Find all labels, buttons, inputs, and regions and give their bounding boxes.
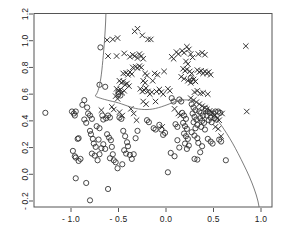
data-point-cross — [149, 89, 154, 94]
data-point-cross — [111, 107, 116, 112]
data-point-circle — [98, 45, 103, 50]
x-axis-tick-labels: - 1.0- 0.50.00.51.0 — [62, 214, 267, 224]
data-point-circle — [73, 176, 78, 181]
data-point-cross — [132, 53, 137, 58]
data-point-cross — [134, 117, 139, 122]
y-tick-label: 1.2 — [20, 8, 30, 20]
data-point-circle — [109, 144, 114, 149]
data-point-cross — [216, 126, 221, 131]
data-point-circle — [87, 128, 92, 133]
y-tick-label: 1.0 — [20, 34, 30, 46]
scatter-plot-figure: - 1.0- 0.50.00.51.0 - 0.20.00.20.40.60.8… — [0, 0, 283, 242]
data-point-circle — [198, 150, 203, 155]
data-point-circle — [172, 154, 177, 159]
data-point-cross — [115, 35, 120, 40]
data-point-cross — [135, 26, 140, 31]
data-point-cross — [171, 56, 176, 61]
data-points-circle-class — [43, 45, 229, 203]
data-point-circle — [175, 138, 180, 143]
data-point-cross — [139, 65, 144, 70]
data-point-cross — [127, 54, 132, 59]
data-point-cross — [99, 107, 104, 112]
data-point-circle — [189, 130, 194, 135]
data-point-cross — [244, 109, 249, 114]
data-point-cross — [184, 44, 189, 49]
data-point-cross — [185, 61, 190, 66]
data-point-cross — [142, 80, 147, 85]
data-point-circle — [177, 145, 182, 150]
x-tick-label: 0.5 — [207, 214, 219, 224]
x-tick-label: - 0.5 — [109, 214, 127, 224]
data-point-circle — [131, 152, 136, 157]
data-point-circle — [123, 134, 128, 139]
data-point-cross — [181, 50, 186, 55]
data-point-cross — [161, 69, 166, 74]
data-point-circle — [85, 105, 90, 110]
data-point-circle — [200, 144, 205, 149]
data-point-cross — [184, 67, 189, 72]
data-point-cross — [143, 101, 148, 106]
data-point-circle — [120, 162, 125, 167]
data-point-cross — [205, 91, 210, 96]
data-point-cross — [206, 69, 211, 74]
data-point-circle — [223, 158, 228, 163]
data-point-cross — [172, 106, 177, 111]
data-point-cross — [179, 74, 184, 79]
x-tick-label: - 1.0 — [62, 214, 80, 224]
data-point-circle — [96, 137, 101, 142]
y-tick-label: 0.8 — [20, 61, 30, 73]
data-point-cross — [202, 52, 207, 57]
decision-boundary-curve — [95, 6, 260, 213]
data-point-cross — [157, 87, 162, 92]
data-point-cross — [144, 73, 149, 78]
data-point-cross — [193, 79, 198, 84]
y-tick-label: 0.2 — [20, 141, 30, 153]
data-point-cross — [131, 111, 136, 116]
data-point-cross — [150, 78, 155, 83]
data-point-circle — [165, 170, 170, 175]
data-point-cross — [160, 91, 165, 96]
data-point-circle — [43, 110, 48, 115]
data-point-circle — [133, 136, 138, 141]
data-point-circle — [87, 198, 92, 203]
data-point-cross — [243, 43, 248, 48]
data-point-circle — [115, 166, 120, 171]
x-tick-label: 0.0 — [160, 214, 172, 224]
data-point-circle — [103, 146, 108, 151]
data-point-cross — [105, 53, 110, 58]
y-tick-label: 0.6 — [20, 88, 30, 100]
data-point-circle — [135, 128, 140, 133]
data-point-circle — [121, 128, 126, 133]
chart-canvas: - 1.0- 0.50.00.51.0 - 0.20.00.20.40.60.8… — [0, 0, 283, 242]
data-point-cross — [141, 56, 146, 61]
data-point-cross — [114, 53, 119, 58]
y-tick-label: - 0.2 — [20, 192, 30, 210]
data-point-circle — [103, 84, 108, 89]
data-point-circle — [105, 186, 110, 191]
data-point-circle — [95, 158, 100, 163]
data-point-cross — [145, 37, 150, 42]
data-point-circle — [97, 152, 102, 157]
plot-frame — [29, 14, 272, 213]
data-point-cross — [122, 51, 127, 56]
data-point-circle — [202, 127, 207, 132]
data-point-circle — [82, 98, 87, 103]
y-tick-label: 0.4 — [20, 115, 30, 127]
data-point-circle — [70, 148, 75, 153]
data-point-circle — [84, 180, 89, 185]
data-point-cross — [213, 124, 218, 129]
y-tick-label: 0.0 — [20, 168, 30, 180]
y-axis-tick-labels: - 0.20.00.20.40.60.81.01.2 — [20, 8, 30, 210]
data-point-cross — [109, 104, 114, 109]
data-point-cross — [183, 59, 188, 64]
data-point-cross — [153, 99, 158, 104]
data-point-cross — [104, 37, 109, 42]
data-point-cross — [167, 88, 172, 93]
data-point-cross — [129, 71, 134, 76]
data-point-cross — [186, 47, 191, 52]
x-tick-label: 1.0 — [255, 214, 267, 224]
data-point-cross — [148, 37, 153, 42]
data-point-cross — [110, 37, 115, 42]
data-point-cross — [140, 33, 145, 38]
data-point-cross — [154, 89, 159, 94]
